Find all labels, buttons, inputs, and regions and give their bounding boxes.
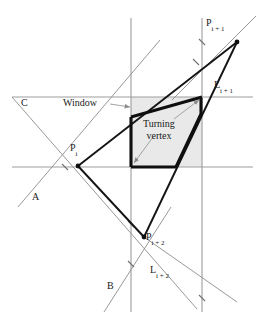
label-base: A <box>32 191 39 202</box>
label-base: B <box>107 280 114 291</box>
ray-b-line <box>104 207 171 312</box>
label-point-p-i: Pi <box>70 143 78 156</box>
tick-marks <box>62 39 205 301</box>
turning-vertex-line-1: Turning <box>143 118 175 130</box>
label-turning-vertex: Turning vertex <box>143 118 175 142</box>
vertex-p-i <box>76 164 81 169</box>
label-subscript: i + 1 <box>212 25 225 33</box>
label-subscript: i <box>76 150 78 158</box>
label-base: P <box>146 231 152 242</box>
geometry-diagram <box>0 0 265 327</box>
label-ray-a: A <box>32 192 39 205</box>
turning-vertex-line-2: vertex <box>143 130 175 142</box>
label-point-p-i-plus-1: Pi + 1 <box>206 18 224 31</box>
edge-pi-to-pi-plus-2 <box>78 166 144 237</box>
label-ray-b: B <box>107 281 114 294</box>
label-ray-c: C <box>21 98 28 111</box>
label-window: Window <box>63 98 97 109</box>
label-base: P <box>70 142 76 153</box>
label-subscript: i + 2 <box>152 239 165 247</box>
label-base: P <box>206 17 212 28</box>
tick-mark <box>193 59 199 65</box>
label-line-l-i-plus-1: Li + 1 <box>214 80 233 93</box>
label-subscript: i + 2 <box>156 272 169 280</box>
label-line-l-i-plus-2: Li + 2 <box>150 265 169 278</box>
window-label-arrow <box>110 104 130 107</box>
label-point-p-i-plus-2: Pi + 2 <box>146 232 164 245</box>
label-subscript: i + 1 <box>220 87 233 95</box>
vertex-p-i-plus-1 <box>235 40 240 45</box>
label-base: C <box>21 97 28 108</box>
figure-canvas: Pi + 1 Li + 1 C Pi A Pi + 2 Li + 2 B Win… <box>0 0 265 327</box>
